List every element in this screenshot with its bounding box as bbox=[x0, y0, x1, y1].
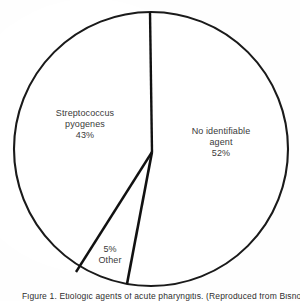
slice-label-line1: No identifiable bbox=[166, 126, 276, 137]
slice-label-value: 43% bbox=[29, 130, 141, 141]
slice-label-other: 5% Other bbox=[84, 244, 136, 266]
slice-label-value: 52% bbox=[166, 148, 276, 159]
slice-label-line2: Other bbox=[84, 255, 136, 266]
slice-label-streptococcus-pyogenes: Streptococcus pyogenes 43% bbox=[29, 108, 141, 141]
figure-caption-text: Figure 1. Etiologic agents of acute phar… bbox=[22, 293, 300, 301]
figure-caption-clipped: Figure 1. Etiologic agents of acute phar… bbox=[0, 293, 300, 301]
pie-chart-figure: Streptococcus pyogenes 43% No identifiab… bbox=[0, 0, 300, 301]
slice-label-line1: Streptococcus bbox=[29, 108, 141, 119]
slice-label-value: 5% bbox=[84, 244, 136, 255]
slice-label-line2: pyogenes bbox=[29, 119, 141, 130]
slice-label-line2: agent bbox=[166, 137, 276, 148]
slice-label-no-identifiable-agent: No identifiable agent 52% bbox=[166, 126, 276, 159]
